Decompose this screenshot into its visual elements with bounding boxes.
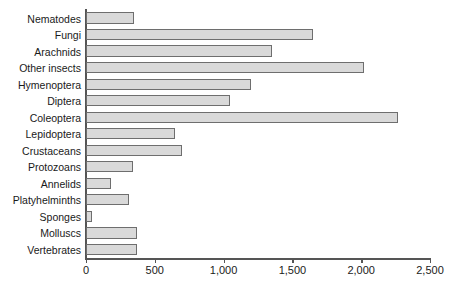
bar-row: Sponges [86, 208, 430, 225]
category-label: Arachnids [0, 44, 81, 61]
bar [86, 45, 272, 56]
x-tick-label: 2,000 [347, 264, 375, 276]
bar-row: Annelids [86, 175, 430, 192]
bar-row: Molluscs [86, 225, 430, 242]
x-tick [292, 258, 293, 263]
x-tick-label: 2,500 [416, 264, 444, 276]
bar-row: Fungi [86, 27, 430, 44]
bar [86, 145, 182, 156]
category-label: Diptera [0, 93, 81, 110]
x-tick [361, 258, 362, 263]
category-label: Protozoans [0, 159, 81, 176]
category-label: Other insects [0, 60, 81, 77]
bar-row: Diptera [86, 93, 430, 110]
bar [86, 128, 175, 139]
bar-row: Other insects [86, 60, 430, 77]
bar [86, 244, 137, 255]
bar [86, 79, 251, 90]
x-tick-label: 0 [83, 264, 89, 276]
category-label: Sponges [0, 209, 81, 226]
bar [86, 211, 92, 222]
bar [86, 227, 137, 238]
bar-row: Nematodes [86, 10, 430, 27]
bar-row: Platyhelminths [86, 192, 430, 209]
bar [86, 95, 230, 106]
category-label: Molluscs [0, 225, 81, 242]
bar [86, 178, 111, 189]
bar [86, 112, 398, 123]
bar-row: Lepidoptera [86, 126, 430, 143]
bar [86, 194, 129, 205]
bar [86, 12, 134, 23]
category-label: Crustaceans [0, 143, 81, 160]
bar-row: Vertebrates [86, 241, 430, 258]
x-tick [86, 258, 87, 263]
bar-row: Coleoptera [86, 109, 430, 126]
plot-area: NematodesFungiArachnidsOther insectsHyme… [86, 10, 430, 258]
x-axis-line [85, 258, 431, 260]
bar-row: Crustaceans [86, 142, 430, 159]
bar [86, 62, 364, 73]
category-label: Nematodes [0, 11, 81, 28]
category-label: Platyhelminths [0, 192, 81, 209]
bar-row: Protozoans [86, 159, 430, 176]
x-tick [155, 258, 156, 263]
x-tick [224, 258, 225, 263]
category-label: Annelids [0, 176, 81, 193]
x-tick-label: 1,000 [210, 264, 238, 276]
category-label: Lepidoptera [0, 126, 81, 143]
bar [86, 161, 133, 172]
x-tick-label: 500 [146, 264, 164, 276]
x-tick [430, 258, 431, 263]
category-label: Vertebrates [0, 242, 81, 259]
bar [86, 29, 313, 40]
bar-row: Arachnids [86, 43, 430, 60]
category-label: Coleoptera [0, 110, 81, 127]
x-tick-label: 1,500 [279, 264, 307, 276]
bar-row: Hymenoptera [86, 76, 430, 93]
category-label: Fungi [0, 27, 81, 44]
category-label: Hymenoptera [0, 77, 81, 94]
bar-chart: NematodesFungiArachnidsOther insectsHyme… [0, 0, 461, 294]
